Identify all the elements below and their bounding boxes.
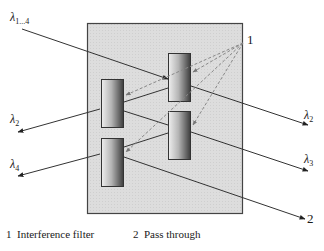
filter-bottom-left <box>102 139 124 187</box>
diagram-canvas <box>0 0 324 251</box>
label-input-lambda: λ1...4 <box>10 11 29 26</box>
label-out-left-top: λ2 <box>10 113 19 128</box>
label-out-right-middle: λ3 <box>304 153 313 168</box>
label-pointer-2: 2 <box>307 212 314 225</box>
label-out-right-top: λ2 <box>304 109 313 124</box>
lambda-subscript: 1...4 <box>15 17 29 26</box>
filter-bottom-right <box>169 112 191 160</box>
lambda-subscript: 3 <box>309 159 313 168</box>
label-pointer-1: 1 <box>247 33 254 46</box>
label-out-left-bottom: λ4 <box>10 158 19 173</box>
filter-left-top <box>102 80 124 128</box>
lambda-subscript: 4 <box>15 164 19 173</box>
lambda-subscript: 2 <box>309 115 313 124</box>
filter-top-right <box>169 54 191 102</box>
lambda-subscript: 2 <box>15 119 19 128</box>
legend-item-interference-filter: 1 Interference filter <box>6 229 94 240</box>
legend-item-pass-through: 2 Pass through <box>133 229 201 240</box>
